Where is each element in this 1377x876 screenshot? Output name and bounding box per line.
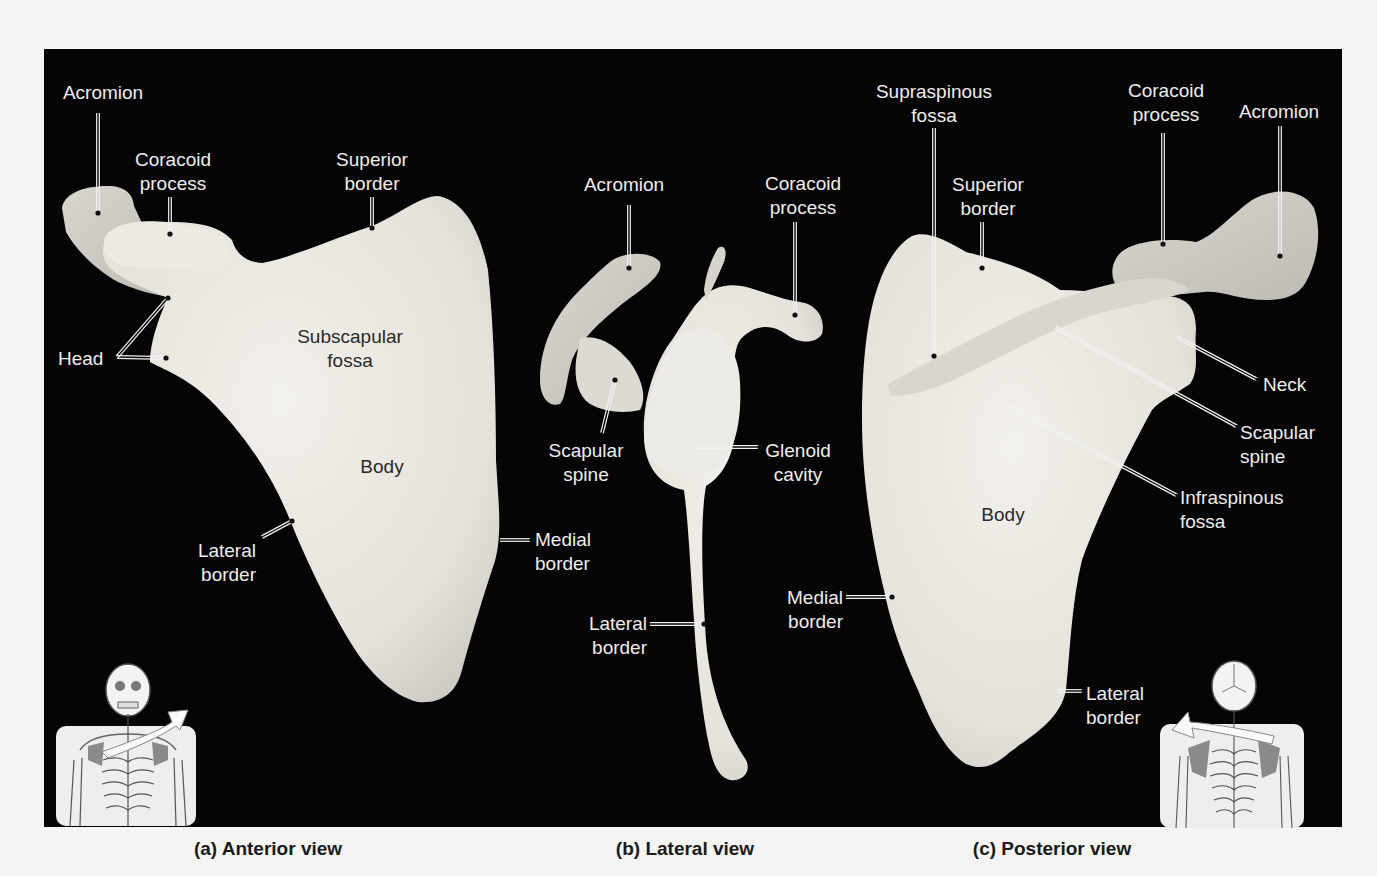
- leader-dot: [701, 621, 706, 626]
- leader-dot: [757, 444, 762, 449]
- label-lateral-glenoid-cavity: Glenoid cavity: [765, 439, 831, 487]
- label-anterior-head: Head: [58, 347, 103, 371]
- label-posterior-supraspinous-fossa: Supraspinous fossa: [876, 80, 992, 128]
- leader-dot: [163, 355, 168, 360]
- leader-dot: [612, 377, 617, 382]
- label-posterior-lateral-border: Lateral border: [1086, 682, 1144, 730]
- label-anterior-lateral-border: Lateral border: [198, 539, 256, 587]
- leader-dot: [1255, 377, 1260, 382]
- leader-dot: [792, 312, 797, 317]
- label-posterior-superior-border: Superior border: [952, 173, 1024, 221]
- leader-dot: [889, 594, 894, 599]
- caption-lateral-view: (b) Lateral view: [616, 838, 754, 860]
- label-posterior-neck: Neck: [1263, 373, 1306, 397]
- label-posterior-infraspinous-fossa: Infraspinous fossa: [1180, 486, 1284, 534]
- label-lateral-coracoid-process: Coracoid process: [765, 172, 841, 220]
- label-anterior-subscapular-fossa: Subscapular fossa: [297, 325, 403, 373]
- anterior-scapula: [62, 186, 499, 702]
- label-anterior-medial-border: Medial border: [535, 528, 591, 576]
- label-lateral-acromion: Acromion: [584, 173, 664, 197]
- leader-dot: [1277, 253, 1282, 258]
- lateral-scapula: [540, 247, 823, 780]
- leader-dot: [529, 537, 534, 542]
- leader-dot: [1160, 241, 1165, 246]
- caption-anterior-view: (a) Anterior view: [194, 838, 342, 860]
- lateral-glenoid-shape: [644, 328, 740, 476]
- label-anterior-acromion: Acromion: [63, 81, 143, 105]
- anterior-body-shape: [103, 196, 500, 702]
- leader-dot: [626, 265, 631, 270]
- label-posterior-body: Body: [981, 503, 1024, 527]
- leader-dot: [165, 295, 170, 300]
- label-posterior-acromion: Acromion: [1239, 100, 1319, 124]
- label-posterior-scapular-spine: Scapular spine: [1240, 421, 1315, 469]
- posterior-skeleton-inset: [1160, 661, 1304, 828]
- scapula-illustrations: [0, 0, 1377, 876]
- label-anterior-body: Body: [360, 455, 403, 479]
- leader-dot: [167, 231, 172, 236]
- leader-dot: [95, 210, 100, 215]
- leader-dot: [979, 265, 984, 270]
- leader-line: [261, 520, 291, 536]
- label-anterior-coracoid-process: Coracoid process: [135, 148, 211, 196]
- label-lateral-scapular-spine: Scapular spine: [549, 439, 624, 487]
- label-posterior-medial-border: Medial border: [787, 586, 843, 634]
- label-posterior-coracoid-process: Coracoid process: [1128, 79, 1204, 127]
- caption-posterior-view: (c) Posterior view: [973, 838, 1131, 860]
- leader-dot: [289, 518, 294, 523]
- label-anterior-superior-border: Superior border: [336, 148, 408, 196]
- leader-dot: [931, 353, 936, 358]
- leader-dot: [369, 225, 374, 230]
- lateral-spine-shape: [576, 337, 644, 412]
- label-lateral-lateral-border: Lateral border: [589, 612, 647, 660]
- anterior-skeleton-inset: [56, 664, 196, 826]
- leader-line: [263, 522, 293, 538]
